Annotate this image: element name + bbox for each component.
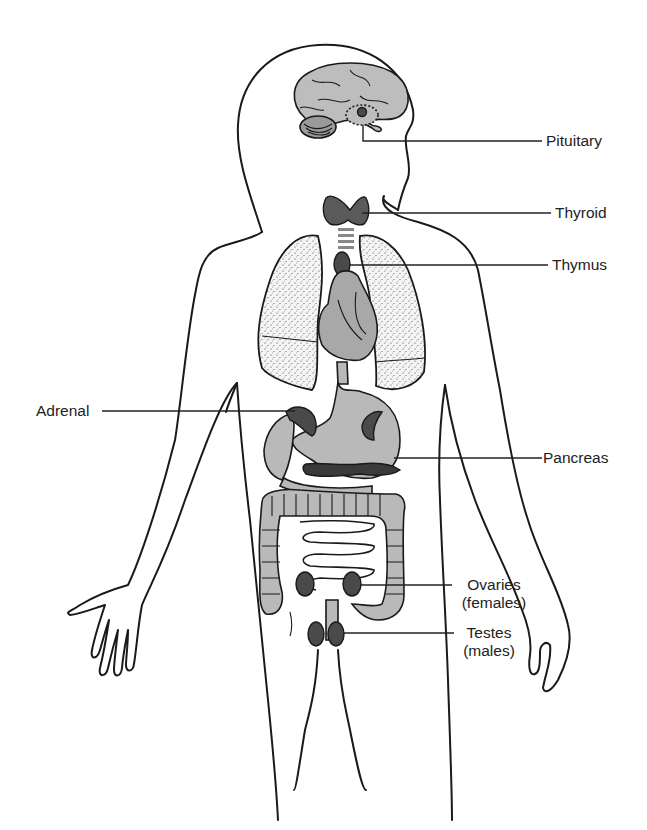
label-testes: Testes: [446, 624, 532, 642]
pancreas-gland: [303, 463, 400, 476]
liver: [264, 414, 294, 480]
left-shoulder-outline: [68, 232, 262, 675]
label-ovaries: Ovaries: [446, 576, 542, 594]
testis-left: [308, 622, 324, 646]
right-shoulder-outline: [383, 196, 569, 691]
label-pancreas: Pancreas: [543, 449, 608, 467]
ovary-right: [343, 572, 361, 596]
label-testes-group: Testes (males): [446, 624, 532, 660]
trachea: [338, 228, 354, 249]
brain: [294, 63, 408, 138]
label-ovaries-group: Ovaries (females): [446, 576, 542, 612]
digestive-tract: [259, 362, 405, 640]
label-ovaries-note: (females): [446, 594, 542, 612]
label-testes-note: (males): [446, 642, 532, 660]
label-thyroid: Thyroid: [555, 204, 607, 222]
thyroid-gland: [323, 196, 368, 225]
inner-left-leg-outline: [294, 650, 318, 790]
left-lung: [258, 235, 322, 390]
pituitary-gland: [358, 108, 367, 117]
testis-right: [328, 622, 344, 646]
leader-pituitary: [363, 125, 542, 141]
label-adrenal: Adrenal: [36, 402, 89, 420]
label-pituitary: Pituitary: [546, 132, 602, 150]
label-thymus: Thymus: [552, 256, 607, 274]
endocrine-diagram: [0, 0, 647, 830]
ovary-left: [296, 572, 314, 596]
inner-right-leg-outline: [338, 650, 366, 790]
